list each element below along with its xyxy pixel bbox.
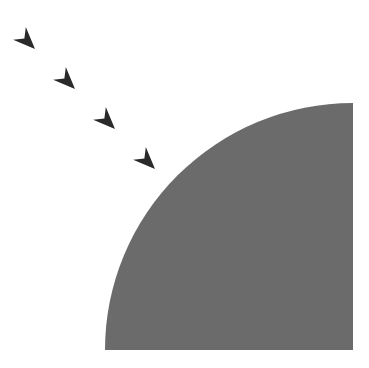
- diagram-canvas: [0, 0, 369, 368]
- arrow-group: [13, 27, 161, 175]
- arrowhead-icon: [53, 67, 81, 95]
- arrowhead-icon: [93, 107, 121, 135]
- quarter-circle-shape: [105, 103, 353, 350]
- arrowhead-icon: [133, 147, 161, 175]
- arrowhead-icon: [13, 27, 41, 55]
